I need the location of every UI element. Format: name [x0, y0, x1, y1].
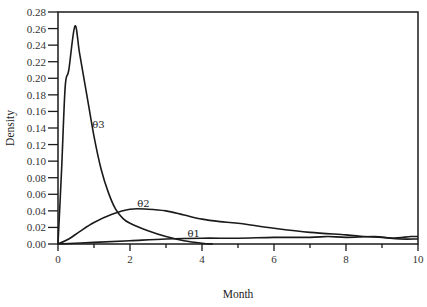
series-label-2: θ2	[137, 198, 149, 209]
x-tick-label: 8	[343, 253, 349, 265]
x-tick-label: 10	[413, 253, 425, 265]
series-line-3	[58, 26, 213, 244]
x-tick-label: 2	[127, 253, 133, 265]
series-line-1	[58, 236, 418, 244]
y-tick-label: 0.26	[27, 23, 47, 35]
y-tick-label: 0.20	[27, 72, 47, 84]
series-label-1: θ1	[188, 228, 200, 239]
y-tick-label: 0.00	[27, 238, 47, 250]
density-chart: 0.000.020.040.060.080.100.120.140.160.18…	[0, 0, 427, 307]
x-axis-title: Month	[223, 288, 254, 300]
y-tick-label: 0.14	[27, 122, 47, 134]
plot-frame	[58, 12, 418, 244]
y-tick-label: 0.10	[27, 155, 47, 167]
y-tick-label: 0.12	[27, 139, 46, 151]
y-tick-label: 0.08	[27, 172, 47, 184]
y-tick-label: 0.28	[27, 6, 47, 18]
x-tick-label: 6	[271, 253, 277, 265]
y-tick-label: 0.02	[27, 221, 46, 233]
y-tick-label: 0.22	[27, 56, 46, 68]
series-labels: θ1θ2θ3	[92, 119, 200, 239]
y-tick-label: 0.24	[27, 39, 47, 51]
y-axis-title: Density	[4, 110, 17, 146]
y-tick-label: 0.18	[27, 89, 47, 101]
y-tick-label: 0.16	[27, 105, 47, 117]
x-tick-label: 0	[55, 253, 61, 265]
y-axis: 0.000.020.040.060.080.100.120.140.160.18…	[27, 6, 58, 250]
y-tick-label: 0.04	[27, 205, 47, 217]
x-axis: 0246810	[55, 244, 424, 265]
series-lines	[58, 26, 418, 244]
x-tick-label: 4	[199, 253, 205, 265]
series-label-3: θ3	[92, 119, 104, 130]
y-tick-label: 0.06	[27, 188, 47, 200]
